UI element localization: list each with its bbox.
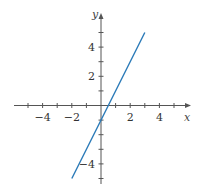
y-axis-arrow-icon <box>99 13 104 19</box>
x-tick-label: −2 <box>64 111 80 124</box>
x-axis-arrow-icon <box>185 103 191 108</box>
x-tick-label: 2 <box>127 111 134 124</box>
line-chart: −4−22442−4xy <box>0 0 200 190</box>
x-axis-label: x <box>184 111 191 124</box>
x-tick-label: −4 <box>34 111 50 124</box>
x-tick-label: 4 <box>156 111 163 124</box>
y-axis-label: y <box>91 8 99 21</box>
y-tick-label: 4 <box>88 41 95 54</box>
y-tick-label: 2 <box>88 70 95 83</box>
